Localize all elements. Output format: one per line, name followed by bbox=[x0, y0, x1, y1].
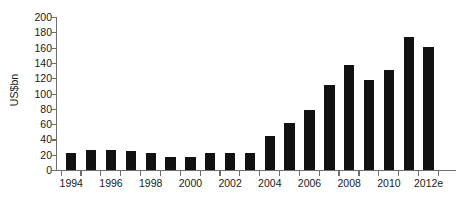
x-axis-line bbox=[56, 170, 456, 171]
x-axis-tick-mark bbox=[319, 171, 320, 176]
bar bbox=[284, 123, 294, 170]
bar bbox=[344, 65, 354, 170]
y-axis-tick-mark bbox=[51, 170, 56, 171]
bar bbox=[364, 80, 374, 170]
y-axis-tick-mark bbox=[51, 32, 56, 33]
x-axis-tick-label: 1996 bbox=[99, 178, 122, 189]
y-axis-title: US$bn bbox=[2, 0, 26, 180]
y-axis-tick-mark bbox=[51, 94, 56, 95]
x-axis-tick-label: 1998 bbox=[139, 178, 162, 189]
bar bbox=[146, 153, 156, 170]
y-axis-tick-mark bbox=[51, 78, 56, 79]
y-axis-tick-mark bbox=[51, 139, 56, 140]
x-axis-tick-label: 2012e bbox=[414, 178, 443, 189]
x-axis-tick-mark bbox=[358, 171, 359, 176]
y-axis-tick-label: 60 bbox=[24, 119, 52, 130]
y-axis-tick-label: 140 bbox=[24, 58, 52, 69]
y-axis-tick-label: 0 bbox=[24, 165, 52, 176]
x-axis-tick-mark bbox=[279, 171, 280, 176]
x-axis-tick-mark bbox=[200, 171, 201, 176]
x-axis-tick-mark bbox=[418, 171, 419, 176]
x-axis-tick-mark bbox=[378, 171, 379, 176]
plot-area bbox=[57, 17, 456, 170]
y-axis-title-label: US$bn bbox=[8, 74, 20, 107]
bar bbox=[185, 157, 195, 170]
y-axis-tick-label: 120 bbox=[24, 73, 52, 84]
x-axis-tick-mark bbox=[219, 171, 220, 176]
y-axis-tick-mark bbox=[51, 155, 56, 156]
x-axis-tick-mark bbox=[239, 171, 240, 176]
x-axis-tick-mark bbox=[338, 171, 339, 176]
x-axis-tick-label: 2008 bbox=[338, 178, 361, 189]
x-axis-tick-mark bbox=[140, 171, 141, 176]
x-axis-tick-label: 2006 bbox=[298, 178, 321, 189]
x-axis-tick-mark bbox=[438, 171, 439, 176]
bar bbox=[225, 153, 235, 170]
y-axis-tick-mark bbox=[51, 48, 56, 49]
y-axis-tick-label: 100 bbox=[24, 88, 52, 99]
x-axis-tick-mark bbox=[299, 171, 300, 176]
x-axis-tick-label: 1994 bbox=[60, 178, 83, 189]
y-axis-tick-label: 160 bbox=[24, 42, 52, 53]
bar bbox=[165, 157, 175, 170]
bar bbox=[324, 85, 334, 170]
y-axis-tick-mark bbox=[51, 124, 56, 125]
x-axis-tick-mark bbox=[61, 171, 62, 176]
x-axis-tick-mark bbox=[100, 171, 101, 176]
y-axis-tick-label: 200 bbox=[24, 12, 52, 23]
x-axis-tick-mark bbox=[160, 171, 161, 176]
bar bbox=[384, 70, 394, 170]
x-axis-tick-mark bbox=[120, 171, 121, 176]
y-axis-tick-labels: 200180160140120100806040200 bbox=[24, 12, 52, 170]
bar bbox=[423, 47, 433, 170]
x-axis-tick-mark bbox=[80, 171, 81, 176]
y-axis-tick-label: 80 bbox=[24, 104, 52, 115]
y-axis-tick-label: 40 bbox=[24, 134, 52, 145]
bar bbox=[404, 37, 414, 170]
x-axis-tick-label: 2010 bbox=[377, 178, 400, 189]
bar bbox=[245, 153, 255, 170]
y-axis-tick-mark bbox=[51, 17, 56, 18]
bar bbox=[66, 153, 76, 170]
x-axis-tick-label: 2000 bbox=[179, 178, 202, 189]
x-axis-tick-label: 2004 bbox=[258, 178, 281, 189]
x-axis-tick-labels: 1994199619982000200220042006200820102012… bbox=[0, 178, 465, 198]
y-axis-tick-label: 180 bbox=[24, 27, 52, 38]
x-axis-tick-mark bbox=[398, 171, 399, 176]
x-axis-tick-mark bbox=[180, 171, 181, 176]
bar bbox=[86, 150, 96, 170]
bar bbox=[205, 153, 215, 170]
bar bbox=[265, 136, 275, 170]
y-axis-tick-mark bbox=[51, 63, 56, 64]
bar bbox=[126, 151, 136, 170]
x-axis-tick-mark bbox=[259, 171, 260, 176]
y-axis-tick-label: 20 bbox=[24, 149, 52, 160]
x-axis-tick-label: 2002 bbox=[218, 178, 241, 189]
bar-chart: US$bn 200180160140120100806040200 199419… bbox=[0, 0, 465, 207]
y-axis-tick-mark bbox=[51, 109, 56, 110]
bar bbox=[304, 110, 314, 170]
bar bbox=[106, 150, 116, 170]
